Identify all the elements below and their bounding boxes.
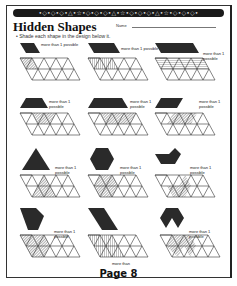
target-shape-8 (90, 148, 114, 170)
target-shape-12 (160, 208, 184, 228)
note-puzzle-8: more than 1 possible (120, 166, 146, 175)
note-puzzle-3: more than 1 possible (203, 52, 231, 61)
note-puzzle-4: more than 1 possible (49, 100, 75, 109)
note-puzzle-1: more than 1 possible (41, 43, 78, 48)
target-shape-3 (155, 43, 199, 53)
note-puzzle-12: more than 1 possible (189, 230, 215, 239)
page-number: Page 8 (0, 268, 237, 279)
target-shape-11 (88, 208, 118, 230)
target-shape-5 (88, 98, 128, 108)
target-shape-9 (155, 148, 181, 164)
note-puzzle-5: more than 1 possible (130, 100, 156, 109)
puzzle-3 (155, 43, 215, 80)
puzzle-drawings (0, 0, 237, 286)
note-puzzle-7: more than 1 possible (55, 166, 81, 175)
note-puzzle-6: more than 1 possible (199, 100, 225, 109)
target-shape-4 (20, 98, 48, 108)
puzzle-1 (20, 43, 80, 80)
target-shape-2 (88, 43, 120, 53)
target-shape-1 (20, 43, 40, 53)
note-puzzle-2: more than 1 possible (121, 47, 158, 52)
note-puzzle-11: more than (112, 262, 142, 267)
note-puzzle-9: more than 1 possible (190, 166, 216, 175)
target-shape-7 (22, 148, 50, 170)
puzzle-11 (88, 208, 148, 257)
note-puzzle-10: more than 1 possible (54, 230, 80, 239)
target-shape-6 (155, 98, 183, 108)
target-shape-10 (20, 208, 44, 230)
